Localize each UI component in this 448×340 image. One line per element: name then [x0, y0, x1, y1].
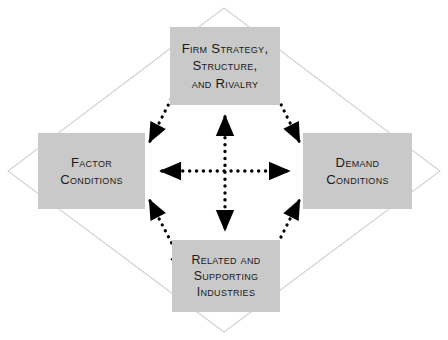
node-demand-conditions[interactable]: Demand Conditions: [303, 133, 412, 209]
porter-diamond-diagram: Firm Strategy, Structure, and Rivalry Fa…: [0, 0, 448, 340]
node-firm-strategy-label: Firm Strategy, Structure, and Rivalry: [182, 40, 269, 91]
node-demand-conditions-label: Demand Conditions: [326, 154, 389, 188]
node-factor-conditions-label: Factor Conditions: [60, 154, 123, 188]
node-related-supporting-label: Related and Supporting Industries: [191, 252, 260, 300]
node-firm-strategy[interactable]: Firm Strategy, Structure, and Rivalry: [170, 27, 280, 105]
node-related-supporting[interactable]: Related and Supporting Industries: [172, 240, 280, 312]
node-factor-conditions[interactable]: Factor Conditions: [38, 133, 145, 209]
